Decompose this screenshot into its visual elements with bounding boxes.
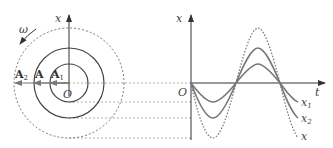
vector-label-a2: A2 [14,68,28,82]
curve-label-x1: x1 [301,96,312,110]
graph-origin-label: O [178,86,187,99]
vector-label-a: A [34,68,44,81]
phasor-diagram: x ω A2 A A1 O x t O x1 x2 x [0,0,333,148]
graph-t-axis-label: t [315,86,320,99]
curve-label-x: x [301,130,308,143]
vector-label-a1: A1 [50,68,64,82]
graph-x-axis-label: x [176,12,183,25]
curve-label-x2: x2 [301,112,312,126]
projection-lines [69,83,191,138]
phasor-x-axis-label: x [55,12,62,25]
phasor-origin-label: O [63,88,72,101]
omega-label: ω [19,23,28,36]
